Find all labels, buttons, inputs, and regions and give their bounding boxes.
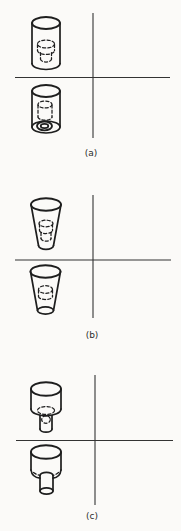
upper-cylinder-a	[32, 17, 60, 70]
hidden-core-bottom-arc	[41, 239, 51, 242]
lower-stepped-c-sides	[31, 452, 61, 470]
upper-stepped-c-top-face	[31, 382, 61, 396]
hidden-cavity-bottom-arc	[39, 297, 53, 300]
upper-cylinder-a-bottom-arc	[32, 64, 60, 70]
hidden-cavity-ring	[39, 286, 53, 294]
panel-a: (a)	[15, 13, 170, 158]
lower-cone-b-bottom-face	[38, 307, 54, 314]
hidden-cavity-ring	[38, 101, 52, 108]
lower-cylinder-a-top-face	[32, 85, 60, 97]
panel-b: (b)	[15, 195, 171, 340]
lower-boss-top-arc	[40, 472, 53, 475]
panel-b-label: (b)	[86, 330, 99, 340]
panel-a-label: (a)	[85, 148, 98, 158]
upper-cone-b	[31, 198, 61, 249]
lower-stepped-c-top-face	[31, 445, 61, 459]
upper-cone-b-top-face	[31, 198, 61, 211]
upper-cylinder-a-top-face	[32, 17, 60, 29]
hidden-cavity-bottom-arc	[38, 117, 52, 120]
upper-stepped-c-sides	[31, 389, 61, 409]
lower-cone-b	[31, 265, 61, 314]
lower-cone-b-top-face	[31, 265, 61, 278]
hidden-step-ring	[38, 407, 55, 415]
panel-b-axes	[15, 195, 171, 318]
upper-cylinder-a-hidden-cavity	[38, 40, 55, 62]
hidden-junction-left	[34, 473, 40, 476]
panel-a-axes	[15, 13, 170, 138]
panel-c: (c)	[16, 375, 173, 521]
diagram-canvas: (a)	[0, 0, 181, 531]
lower-stepped-cylinder-c	[31, 445, 61, 494]
pattern-parting-line-figure: (a)	[0, 0, 181, 531]
upper-cone-b-hidden-cavity	[39, 220, 53, 241]
hidden-core-bottom-arc	[41, 59, 52, 62]
hidden-cavity-top-ring	[39, 220, 53, 227]
upper-boss-bottom-arc	[40, 429, 52, 432]
lower-cylinder-a-hole-inner-ring	[41, 124, 49, 128]
hidden-cavity-top-ring	[38, 40, 55, 48]
panel-c-label: (c)	[86, 511, 98, 521]
lower-boss-bottom-face	[40, 488, 53, 494]
lower-cylinder-a	[32, 85, 60, 133]
hidden-core-ring	[42, 416, 51, 424]
upper-cone-b-bottom-arc	[39, 246, 54, 250]
lower-cone-b-hidden-cavity	[39, 286, 53, 300]
lower-cylinder-a-hole-outer-ring	[37, 122, 52, 131]
lower-cylinder-a-hidden-cavity	[38, 101, 52, 120]
upper-stepped-cylinder-c	[31, 382, 61, 432]
hidden-junction-right	[53, 473, 58, 476]
